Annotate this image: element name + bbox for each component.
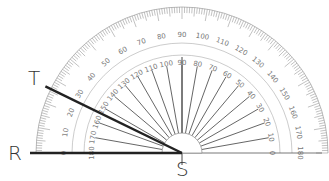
scale-tick [307,87,312,90]
scale-tick [239,20,241,25]
scale-tick [98,33,103,40]
scale-tick [62,69,69,74]
spoke-line [152,70,175,134]
scale-tick [72,57,77,61]
scale-tick [107,28,110,33]
scale-tick [292,63,297,67]
scale-tick [105,29,108,34]
inner-scale-label: 50 [234,78,246,90]
scale-tick [225,14,227,20]
scale-tick [162,8,163,14]
scale-tick [137,14,139,20]
scale-tick [74,55,78,59]
scale-tick [310,94,315,96]
scale-tick [57,78,62,81]
scale-tick [213,11,214,17]
scale-tick [39,123,45,124]
scale-tick [149,11,150,17]
scale-tick [237,19,239,25]
scale-tick [81,48,85,52]
inner-scale-label: 120 [129,68,145,82]
outer-scale-label: 30 [74,88,85,100]
scale-tick [125,19,127,25]
scale-tick [314,128,326,130]
inner-scale-label: 130 [116,77,131,92]
scale-tick [139,13,141,19]
outer-scale-label: 120 [233,44,249,58]
scale-tick [64,67,69,71]
scale-tick [42,113,48,115]
scale-tick [254,28,257,33]
outer-scale-label: 130 [250,55,265,70]
scale-tick [302,78,307,81]
scale-tick [250,25,253,30]
scale-tick [298,71,303,74]
scale-tick [197,8,198,14]
outer-scale-label: 20 [66,107,77,118]
spoke-line [167,66,179,133]
outer-scale-label: 50 [100,57,112,69]
scale-tick [294,69,301,74]
scale-tick [79,50,85,56]
scale-tick [301,76,306,79]
scale-tick [70,59,79,67]
scale-tick [134,15,136,21]
scale-tick [232,17,234,23]
scale-tick [37,138,43,139]
outer-scale-label: 80 [156,32,166,41]
scale-tick [109,27,115,37]
scale-tick [234,18,236,24]
inner-scale-label: 70 [207,63,218,74]
scale-tick [94,36,98,41]
scale-tick [46,101,52,103]
scale-tick [268,41,276,50]
scale-tick [116,23,119,28]
scale-tick [318,120,324,121]
scale-tick [37,133,43,134]
scale-tick [152,10,153,16]
scale-tick [44,105,50,107]
scale-tick [246,23,249,28]
spoke-line [99,123,163,146]
scale-tick [48,96,54,98]
scale-tick [260,32,263,37]
scale-tick [274,43,278,48]
scale-tick [317,113,323,115]
inner-scale-label: 170 [88,130,98,145]
scale-tick [319,123,325,124]
scale-tick [38,130,44,131]
scale-tick [130,17,132,23]
inner-scale-label: 160 [91,115,103,130]
inner-scale-label: 140 [106,87,121,102]
scale-tick [111,25,114,30]
outer-scale-label: 160 [287,105,299,120]
outer-scale-label: 40 [86,71,98,83]
scale-tick [314,115,323,117]
scale-tick [147,11,148,17]
scale-tick [266,36,270,41]
scale-tick [102,31,105,36]
scale-tick [67,63,72,67]
scale-tick [248,24,251,29]
outer-scale-label: 170 [293,125,303,140]
scale-tick [69,61,74,65]
scale-tick [319,125,325,126]
inner-scale-label: 60 [221,69,233,80]
scale-tick [318,118,324,119]
spoke-line [202,138,269,150]
scale-tick [276,45,280,49]
inner-scale-label: 100 [159,59,174,69]
protractor-svg: 0180101702016030150401405013060120701108… [0,0,329,181]
scale-tick [318,140,327,141]
scale-tick [127,18,129,24]
scale-tick [123,20,125,25]
scale-tick [53,84,58,87]
scale-tick [279,48,283,52]
scale-tick [285,59,294,67]
outer-scale-label: 150 [277,86,291,102]
scale-tick [249,27,255,37]
scale-tick [270,40,274,45]
scale-tick [299,73,304,76]
inner-scale-label: 40 [245,89,257,101]
scale-tick [256,29,259,34]
